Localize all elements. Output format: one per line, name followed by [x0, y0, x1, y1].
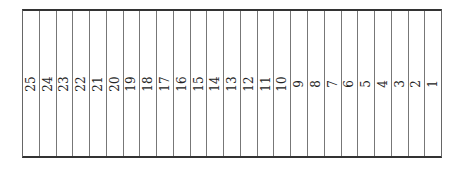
table-column: 22 [73, 11, 90, 156]
table-column: 19 [124, 11, 141, 156]
column-number: 12 [242, 76, 256, 91]
table-column: 10 [274, 11, 291, 156]
table-column: 25 [23, 11, 40, 156]
column-number: 7 [326, 80, 340, 88]
column-number: 6 [342, 80, 356, 88]
table-column: 11 [258, 11, 275, 156]
column-number: 24 [41, 76, 55, 91]
table-column: 16 [174, 11, 191, 156]
table-column: 14 [207, 11, 224, 156]
column-number: 13 [225, 76, 239, 91]
table-column: 13 [224, 11, 241, 156]
table-column: 4 [375, 11, 392, 156]
column-number: 20 [108, 76, 122, 91]
table-column: 8 [308, 11, 325, 156]
table-column: 3 [392, 11, 409, 156]
column-number: 17 [158, 76, 172, 91]
table-column: 17 [157, 11, 174, 156]
table-column: 2 [409, 11, 426, 156]
column-number: 15 [192, 76, 206, 91]
table-column: 5 [358, 11, 375, 156]
rotated-number-table: 25 24 23 22 21 20 19 18 17 16 15 14 13 1… [22, 9, 442, 158]
column-number: 14 [208, 76, 222, 91]
column-number: 8 [309, 80, 323, 88]
table-column: 9 [291, 11, 308, 156]
column-number: 1 [426, 80, 440, 88]
table-column: 15 [191, 11, 208, 156]
column-number: 2 [409, 80, 423, 88]
column-number: 16 [175, 76, 189, 91]
table-column: 21 [90, 11, 107, 156]
column-number: 3 [393, 80, 407, 88]
table-column: 1 [425, 11, 441, 156]
table-column: 18 [140, 11, 157, 156]
column-number: 19 [124, 76, 138, 91]
column-number: 9 [292, 80, 306, 88]
table-column: 6 [342, 11, 359, 156]
column-number: 18 [141, 76, 155, 91]
table-column: 20 [107, 11, 124, 156]
column-number: 25 [24, 76, 38, 91]
table-column: 7 [325, 11, 342, 156]
table-column: 24 [40, 11, 57, 156]
column-number: 10 [275, 76, 289, 91]
column-number: 11 [259, 76, 273, 91]
column-number: 22 [74, 76, 88, 91]
column-number: 23 [57, 76, 71, 91]
column-number: 4 [376, 80, 390, 88]
table-column: 23 [57, 11, 74, 156]
column-number: 21 [91, 76, 105, 91]
table-column: 12 [241, 11, 258, 156]
column-number: 5 [359, 80, 373, 88]
